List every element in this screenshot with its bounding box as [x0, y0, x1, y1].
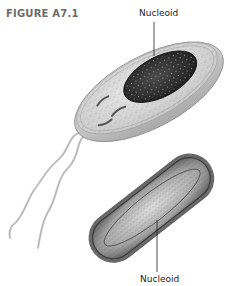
- callout-nucleoid-top: Nucleoid: [139, 8, 178, 18]
- callout-nucleoid-bottom: Nucleoid: [140, 274, 179, 284]
- bacterium-illustration: [60, 21, 239, 162]
- bacterium-micrograph: [78, 144, 224, 273]
- flagella: [10, 132, 85, 248]
- figure-artwork: [0, 0, 244, 286]
